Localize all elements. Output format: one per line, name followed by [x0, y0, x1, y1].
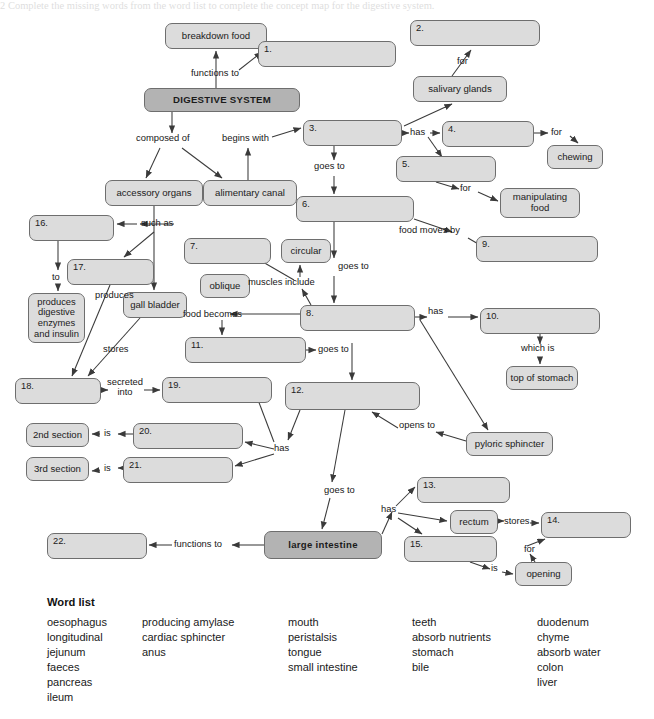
word-list-item: chyme: [537, 630, 601, 645]
node-label: 14.: [547, 515, 560, 525]
word-list-item: producing amylase: [142, 615, 234, 630]
node-label: DIGESTIVE SYSTEM: [173, 95, 271, 106]
node-breakdown-food[interactable]: breakdown food: [165, 23, 267, 49]
node-label: chewing: [557, 152, 592, 163]
node-label: 9.: [482, 239, 490, 249]
word-list-item: anus: [142, 645, 234, 660]
word-list-item: ileum: [47, 690, 107, 705]
node-label: 2nd section: [33, 430, 82, 441]
node-salivary-glands[interactable]: salivary glands: [413, 76, 507, 102]
word-list-item: mouth: [288, 615, 358, 630]
node-label: 12.: [291, 385, 304, 395]
word-list-item: colon: [537, 660, 601, 675]
node-blank-18[interactable]: 18.: [15, 378, 101, 404]
node-blank-21[interactable]: 21.: [123, 457, 233, 483]
node-label: salivary glands: [428, 84, 491, 95]
node-label: 3.: [309, 123, 317, 133]
word-list-item: bile: [412, 660, 491, 675]
node-label: alimentary canal: [215, 188, 285, 199]
node-blank-16[interactable]: 16.: [29, 215, 114, 241]
node-produces-digestive-enzymes-and-insulin[interactable]: produces digestive enzymes and insulin: [28, 293, 85, 343]
node-circular[interactable]: circular: [281, 239, 331, 263]
edge-label-has-mouth: has: [410, 127, 425, 137]
node-label: 11.: [191, 340, 203, 350]
node-label: 13.: [423, 480, 436, 490]
edge-label-for-manipulating: for: [460, 183, 471, 193]
node-label: manipulating food: [504, 192, 576, 213]
node-blank-6[interactable]: 6.: [296, 196, 414, 222]
node-label: 17.: [73, 262, 86, 272]
node-blank-15[interactable]: 15.: [404, 536, 497, 562]
edge-label-has-large-intestine: has: [381, 504, 396, 514]
node-blank-5[interactable]: 5.: [396, 156, 496, 182]
node-label: 16.: [35, 218, 48, 228]
node-label: 3rd section: [34, 464, 81, 475]
node-blank-2[interactable]: 2.: [410, 20, 540, 46]
node-label: oblique: [210, 281, 241, 292]
edge-label-goes-to-oesophagus-stomach: goes to: [338, 261, 369, 271]
edge-label-which-is: which is: [521, 343, 554, 353]
edge-label-food-becomes: food becomes: [183, 309, 242, 319]
node-blank-1[interactable]: 1.: [258, 41, 396, 67]
edge-label-for-salivary: for: [457, 56, 468, 66]
word-list-item: cardiac sphincter: [142, 630, 234, 645]
node-blank-7[interactable]: 7.: [184, 238, 271, 264]
word-list-item: pancreas: [47, 675, 107, 690]
node-label: gall bladder: [130, 300, 180, 311]
edge-label-is-anus: is: [491, 563, 498, 573]
node-chewing[interactable]: chewing: [547, 145, 603, 169]
node-label: accessory organs: [116, 188, 191, 199]
node-blank-12[interactable]: 12.: [285, 382, 420, 410]
node-3rd-section[interactable]: 3rd section: [26, 457, 89, 481]
node-pyloric-sphincter[interactable]: pyloric sphincter: [466, 432, 553, 456]
edge-label-stores: stores: [103, 344, 129, 354]
node-opening[interactable]: opening: [515, 562, 572, 586]
node-label: 6.: [302, 199, 310, 209]
node-label: rectum: [459, 517, 488, 528]
node-blank-4[interactable]: 4.: [442, 121, 534, 147]
word-list-column-2: producing amylase cardiac sphincter anus: [142, 615, 234, 660]
node-blank-11[interactable]: 11.: [185, 337, 306, 363]
node-label: 1.: [264, 44, 272, 54]
node-blank-20[interactable]: 20.: [133, 423, 243, 449]
node-label: pyloric sphincter: [475, 439, 544, 450]
node-blank-10[interactable]: 10.: [480, 308, 600, 334]
node-label: circular: [291, 246, 322, 257]
word-list-title: Word list: [47, 596, 95, 608]
node-digestive-system[interactable]: DIGESTIVE SYSTEM: [144, 88, 300, 112]
node-top-of-stomach[interactable]: top of stomach: [506, 366, 578, 390]
node-blank-13[interactable]: 13.: [417, 477, 510, 503]
edge-label-opens-to: opens to: [399, 420, 435, 430]
word-list-item: tongue: [288, 645, 358, 660]
node-label: 21.: [129, 460, 142, 470]
node-blank-22[interactable]: 22.: [47, 533, 147, 559]
edge-label-is-2nd-section: is: [104, 428, 111, 438]
edge-label-such-as: such as: [141, 218, 173, 228]
concept-map-page: 2 Complete the missing words from the wo…: [0, 0, 654, 719]
node-label: 2.: [416, 23, 424, 33]
node-2nd-section[interactable]: 2nd section: [26, 423, 89, 447]
node-blank-19[interactable]: 19.: [162, 377, 272, 403]
node-blank-3[interactable]: 3.: [303, 120, 402, 146]
word-list-item: oesophagus: [47, 615, 107, 630]
edge-label-goes-to-chyme: goes to: [318, 344, 349, 354]
node-blank-17[interactable]: 17.: [67, 259, 154, 285]
node-manipulating-food[interactable]: manipulating food: [500, 188, 580, 218]
node-large-intestine[interactable]: large intestine: [264, 531, 382, 559]
edge-label-food-moves-by: food moves by: [399, 225, 460, 235]
node-rectum[interactable]: rectum: [450, 510, 498, 534]
node-oblique[interactable]: oblique: [200, 274, 250, 298]
node-label: 19.: [168, 380, 181, 390]
word-list-column-4: teeth absorb nutrients stomach bile: [412, 615, 491, 675]
node-blank-9[interactable]: 9.: [476, 236, 598, 262]
node-blank-14[interactable]: 14.: [541, 512, 631, 538]
edge-label-begins-with: begins with: [222, 133, 269, 143]
node-alimentary-canal[interactable]: alimentary canal: [203, 180, 297, 206]
word-list-item: absorb nutrients: [412, 630, 491, 645]
word-list-item: liver: [537, 675, 601, 690]
node-label: large intestine: [288, 540, 358, 551]
word-list-item: duodenum: [537, 615, 601, 630]
node-accessory-organs[interactable]: accessory organs: [105, 180, 203, 206]
node-blank-8[interactable]: 8.: [300, 305, 415, 331]
node-label: opening: [526, 569, 560, 580]
